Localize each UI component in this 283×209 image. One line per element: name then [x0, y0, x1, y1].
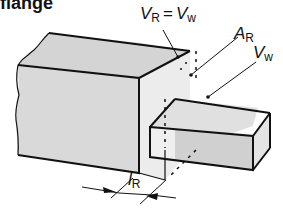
label-ar: AR [234, 25, 254, 47]
dim-arrow-left [103, 187, 116, 193]
label-vw: Vw [253, 44, 273, 66]
stub-front-light [150, 127, 175, 160]
leader-vw [208, 62, 256, 97]
label-lr: lR [128, 171, 140, 193]
stub-end [253, 113, 270, 170]
label-vr-equals-vw: VR=Vw [140, 5, 196, 27]
leader-ar [191, 37, 238, 75]
dim-arrow-right [146, 193, 158, 200]
